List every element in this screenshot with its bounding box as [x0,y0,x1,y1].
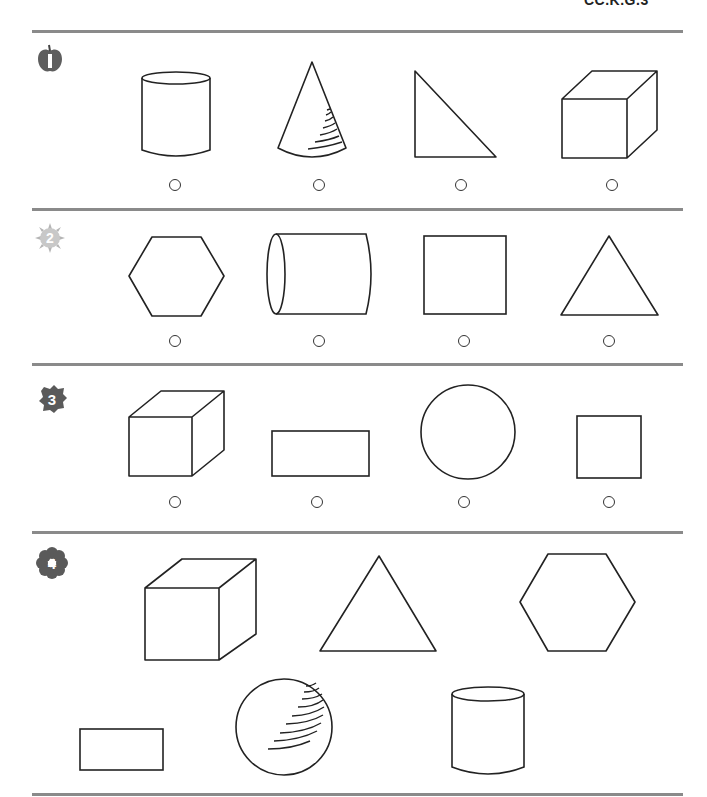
cone-shape [275,60,347,165]
right-triangle-shape [414,70,498,158]
cylinder-shape [451,685,527,779]
triangle-shape [560,235,660,317]
hexagon-shape [128,236,226,318]
answer-radio-1a[interactable] [169,179,181,191]
answer-radio-2d[interactable] [603,335,615,347]
square-shape [423,235,507,315]
answer-radio-1c[interactable] [455,179,467,191]
circle-shape [420,384,518,482]
divider-bottom [32,793,683,796]
leaf-icon: 3 [36,383,68,415]
cylinder-shape [141,70,213,160]
rectangle-shape [271,430,371,478]
triangle-shape [319,555,439,653]
answer-radio-1b[interactable] [313,179,325,191]
svg-text:3: 3 [48,391,56,408]
answer-radio-3b[interactable] [311,496,323,508]
answer-radio-2c[interactable] [458,335,470,347]
svg-text:2: 2 [46,230,54,246]
divider-top [32,30,683,33]
horizontal-cylinder-shape [266,233,378,317]
cube-shape [144,558,259,662]
svg-text:4: 4 [48,555,57,572]
square-shape [576,415,642,479]
hexagon-shape [519,553,637,653]
divider-3 [32,531,683,534]
answer-radio-3d[interactable] [603,496,615,508]
divider-1 [32,208,683,211]
answer-radio-1d[interactable] [606,179,618,191]
answer-radio-3a[interactable] [169,496,181,508]
cube-shape [561,70,659,162]
divider-2 [32,363,683,366]
rectangle-shape [79,728,165,771]
answer-radio-2a[interactable] [169,335,181,347]
answer-radio-2b[interactable] [313,335,325,347]
sun-icon: 2 [34,222,66,254]
flower-icon: 4 [36,547,68,579]
cube-shape [128,390,226,478]
standard-code: CC.K.G.3 [584,0,649,8]
answer-radio-3c[interactable] [458,496,470,508]
apple-icon [34,43,66,75]
sphere-shape [234,677,334,777]
